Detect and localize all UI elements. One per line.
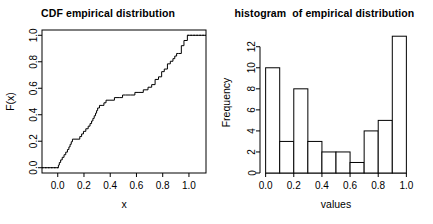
cdf-y-tick-label: 0.4 — [29, 107, 40, 121]
cdf-x-tick-label: 0.4 — [103, 180, 117, 191]
histogram-bar — [364, 131, 378, 173]
histogram-x-tick-label: 1.0 — [399, 180, 413, 191]
histogram-x-tick-label: 0.4 — [315, 180, 329, 191]
histogram-bar — [350, 162, 364, 173]
histogram-x-tick-label: 0.6 — [343, 180, 357, 191]
histogram-y-tick-label: 6 — [247, 107, 258, 113]
panel-cdf: CDF empirical distribution 0.00.20.40.60… — [0, 0, 216, 224]
histogram-bar — [294, 89, 308, 173]
cdf-y-tick-label: 0.2 — [29, 134, 40, 148]
cdf-y-tick-label: 0.0 — [29, 160, 40, 174]
histogram-bar — [322, 152, 336, 173]
histogram-y-axis-title: Frequency — [220, 77, 232, 127]
histogram-bar — [266, 68, 280, 173]
histogram-y-tick-label: 8 — [247, 86, 258, 92]
cdf-x-tick-label: 0.8 — [156, 180, 170, 191]
cdf-y-tick-label: 0.8 — [29, 54, 40, 68]
histogram-x-tick-label: 0.8 — [371, 180, 385, 191]
histogram-y-tick-label: 0 — [247, 170, 258, 176]
figure-canvas: CDF empirical distribution 0.00.20.40.60… — [0, 0, 433, 224]
cdf-x-tick-label: 0.6 — [130, 180, 144, 191]
cdf-x-tick-label: 0.0 — [51, 180, 65, 191]
histogram-plot-svg: 0246810120.00.20.40.60.81.0valuesFrequen… — [216, 0, 433, 224]
histogram-y-tick-label: 10 — [247, 62, 258, 74]
histogram-x-tick-label: 0.0 — [259, 180, 273, 191]
histogram-bar — [378, 120, 392, 173]
histogram-bar — [280, 141, 294, 173]
cdf-step-curve — [42, 35, 206, 167]
cdf-y-axis-title: F(x) — [4, 92, 16, 111]
cdf-x-axis-title: x — [121, 198, 127, 210]
cdf-y-tick-label: 1.0 — [29, 28, 40, 42]
cdf-x-tick-label: 0.2 — [77, 180, 91, 191]
panel-histogram: histogram of empirical distribution 0246… — [216, 0, 433, 224]
cdf-plot-svg: 0.00.20.40.60.81.00.00.20.40.60.81.0xF(x… — [0, 0, 216, 224]
cdf-y-tick-label: 0.6 — [29, 81, 40, 95]
cdf-x-tick-label: 1.0 — [182, 180, 196, 191]
histogram-bar — [336, 152, 350, 173]
histogram-bar — [308, 141, 322, 173]
histogram-y-tick-label: 12 — [247, 41, 258, 53]
histogram-x-tick-label: 0.2 — [287, 180, 301, 191]
histogram-bar — [392, 36, 406, 173]
histogram-y-tick-label: 4 — [247, 128, 258, 134]
histogram-x-axis-title: values — [321, 198, 351, 210]
histogram-y-tick-label: 2 — [247, 149, 258, 155]
